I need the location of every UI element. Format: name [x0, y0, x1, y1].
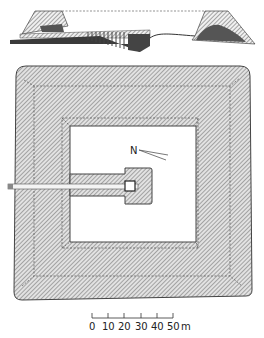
scale-label-30: 30	[135, 321, 148, 332]
scale-unit: m	[181, 321, 191, 332]
section-chamber	[128, 34, 150, 52]
scale-label-20: 20	[118, 321, 131, 332]
entrance-passage	[8, 184, 138, 189]
section-ground-line	[150, 34, 195, 38]
diagram-canvas: N 0 10 20 30 40 50 m	[0, 0, 264, 338]
scale-bar: 0 10 20 30 40 50 m	[89, 313, 191, 332]
burial-chamber	[125, 181, 135, 191]
north-label: N	[130, 145, 137, 156]
cross-section	[10, 11, 255, 52]
plan-view: N	[8, 66, 252, 300]
passage-entrance	[8, 184, 13, 189]
scale-label-0: 0	[89, 321, 95, 332]
scale-label-40: 40	[151, 321, 164, 332]
scale-label-50: 50	[167, 321, 180, 332]
scale-label-10: 10	[102, 321, 115, 332]
